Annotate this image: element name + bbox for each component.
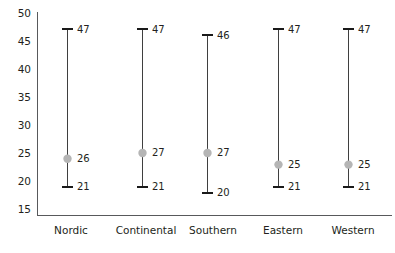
axis-lines [38,12,393,216]
min-value-label: 21 [77,181,90,192]
y-tick-label: 50 [18,7,31,19]
x-tick-label-continental: Continental [116,224,177,236]
min-value-label: 21 [152,181,165,192]
y-tick-label: 20 [18,175,31,187]
max-value-label: 47 [77,24,90,35]
series-group-nordic: 47 26 21 [62,24,90,192]
y-tick-label: 45 [18,35,31,47]
y-tick-label: 40 [18,63,31,75]
y-tick-label: 25 [18,147,31,159]
median-marker [274,160,282,168]
y-axis-tick-labels: 50 45 40 35 30 25 20 15 [18,7,31,215]
max-value-label: 47 [358,24,371,35]
chart-canvas: 50 45 40 35 30 25 20 15 47 26 21 47 [0,0,395,253]
median-marker [344,160,352,168]
series-group-southern: 46 27 20 [202,30,230,198]
y-tick-label: 15 [18,203,31,215]
series-group-western: 47 25 21 [343,24,371,192]
series-group-continental: 47 27 21 [137,24,165,192]
max-value-label: 47 [288,24,301,35]
median-value-label: 26 [77,153,90,164]
range-plot-chart: 50 45 40 35 30 25 20 15 47 26 21 47 [0,0,395,253]
x-tick-label-nordic: Nordic [54,224,88,236]
x-axis-tick-labels: Nordic Continental Southern Eastern West… [54,224,374,236]
median-value-label: 27 [217,147,230,158]
y-tick-label: 35 [18,91,31,103]
min-value-label: 21 [288,181,301,192]
median-marker [138,149,146,157]
x-tick-label-eastern: Eastern [263,224,303,236]
x-tick-label-southern: Southern [189,224,237,236]
x-tick-label-western: Western [331,224,374,236]
max-value-label: 47 [152,24,165,35]
min-value-label: 20 [217,187,230,198]
median-value-label: 25 [288,159,301,170]
median-value-label: 25 [358,159,371,170]
median-marker [63,155,71,163]
series-group-eastern: 47 25 21 [273,24,301,192]
median-marker [203,149,211,157]
median-value-label: 27 [152,147,165,158]
max-value-label: 46 [217,30,230,41]
y-tick-label: 30 [18,119,31,131]
min-value-label: 21 [358,181,371,192]
